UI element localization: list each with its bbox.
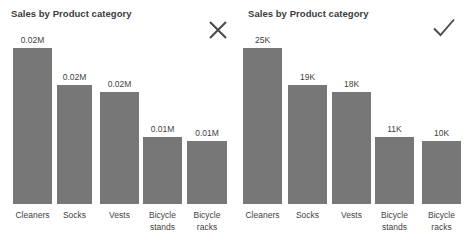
bar[interactable] <box>243 48 282 204</box>
bar-group[interactable]: 0.01MBicycle racks <box>187 141 227 204</box>
cross-icon <box>206 18 230 42</box>
category-axis-label: Vests <box>96 210 144 222</box>
bar-value-label: 11K <box>387 124 402 134</box>
bar[interactable] <box>375 137 414 204</box>
bar-group[interactable]: 25KCleaners <box>243 48 282 204</box>
bar[interactable] <box>100 92 139 204</box>
bar-group[interactable]: 11KBicycle stands <box>375 137 414 204</box>
bar[interactable] <box>57 85 92 204</box>
category-axis-label: Cleaners <box>239 210 287 222</box>
bar-group[interactable]: 0.02MVests <box>100 92 139 204</box>
bar-group[interactable]: 0.01MBicycle stands <box>143 137 182 204</box>
bar-group[interactable]: 18KVests <box>332 92 371 204</box>
bar-value-label: 0.02M <box>21 35 45 45</box>
category-axis-label: Bicycle racks <box>418 210 466 233</box>
bar-value-label: 19K <box>300 72 315 82</box>
bar[interactable] <box>422 141 461 204</box>
category-axis-label: Socks <box>284 210 332 222</box>
category-axis-label: Socks <box>51 210 99 222</box>
bar-group[interactable]: 10KBicycle racks <box>422 141 461 204</box>
category-axis-label: Cleaners <box>9 210 57 222</box>
bar[interactable] <box>288 85 327 204</box>
bar-value-label: 0.02M <box>63 72 87 82</box>
bar-group[interactable]: 0.02MSocks <box>57 85 92 204</box>
bar-value-label: 18K <box>344 79 359 89</box>
bar-group[interactable]: 19KSocks <box>288 85 327 204</box>
category-axis-label: Vests <box>328 210 376 222</box>
bar[interactable] <box>143 137 182 204</box>
comparison-figure: Sales by Product category 0.02MCleaners0… <box>0 0 473 250</box>
category-axis-label: Bicycle stands <box>371 210 419 233</box>
bar[interactable] <box>13 48 52 204</box>
bar-value-label: 0.01M <box>151 124 175 134</box>
bar-value-label: 0.01M <box>195 128 219 138</box>
check-icon <box>430 14 458 42</box>
bar-value-label: 25K <box>255 35 270 45</box>
left-panel: Sales by Product category 0.02MCleaners0… <box>0 0 236 250</box>
bar[interactable] <box>332 92 371 204</box>
bar-value-label: 10K <box>434 128 449 138</box>
category-axis-label: Bicycle stands <box>139 210 187 233</box>
bar[interactable] <box>187 141 227 204</box>
left-chart-plot: 0.02MCleaners0.02MSocks0.02MVests0.01MBi… <box>0 0 236 250</box>
bar-value-label: 0.02M <box>108 79 132 89</box>
category-axis-label: Bicycle racks <box>183 210 231 233</box>
bar-group[interactable]: 0.02MCleaners <box>13 48 52 204</box>
